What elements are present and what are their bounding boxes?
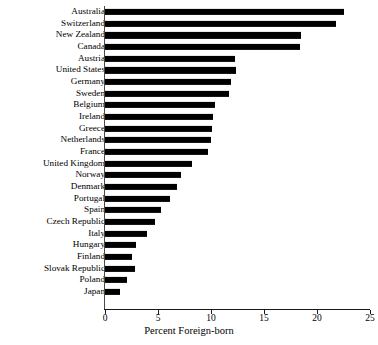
bar-row: New Zealand [0, 30, 378, 42]
bar-row: Hungary [0, 239, 378, 251]
bar [105, 91, 229, 97]
x-tick-label: 20 [312, 314, 322, 324]
bar-row: Portugal [0, 193, 378, 205]
bar-row: Italy [0, 228, 378, 240]
bar-row: Poland [0, 274, 378, 286]
bar [105, 207, 161, 213]
bar-row: Ireland [0, 111, 378, 123]
bar [105, 137, 211, 143]
bar-row: Australia [0, 6, 378, 18]
category-label: France [80, 147, 105, 156]
bar [105, 172, 181, 178]
category-label: Austria [78, 54, 105, 63]
bar-row: Greece [0, 123, 378, 135]
category-label: New Zealand [56, 31, 105, 40]
x-tick-label: 25 [365, 314, 375, 324]
bar [105, 254, 132, 260]
bar [105, 126, 212, 132]
category-label: Germany [71, 77, 105, 86]
category-label: Italy [88, 229, 105, 238]
x-tick-label: 0 [103, 314, 108, 324]
category-label: Norway [75, 171, 105, 180]
bar [105, 230, 147, 236]
bar-row: Austria [0, 53, 378, 65]
y-axis-line [104, 6, 105, 310]
bar [105, 44, 300, 50]
bar [105, 102, 215, 108]
bar [105, 161, 192, 167]
category-label: Greece [79, 124, 105, 133]
category-label: Netherlands [61, 136, 105, 145]
bar [105, 56, 235, 62]
bar [105, 9, 344, 15]
category-label: Finland [77, 252, 105, 261]
x-axis-line [104, 309, 370, 310]
x-tick-label: 15 [259, 314, 269, 324]
category-label: Hungary [73, 241, 105, 250]
x-tick-label: 10 [206, 314, 216, 324]
x-tick-label: 5 [156, 314, 161, 324]
category-label: Denmark [71, 182, 105, 191]
plot-area: AustraliaSwitzerlandNew ZealandCanadaAus… [0, 0, 378, 310]
category-label: Ireland [79, 112, 105, 121]
x-axis-title: Percent Foreign-born [0, 326, 378, 337]
bar [105, 67, 236, 73]
bar [105, 32, 301, 38]
bar-row: Norway [0, 169, 378, 181]
category-label: Belgium [73, 101, 105, 110]
bar-row: Spain [0, 204, 378, 216]
bar [105, 21, 336, 27]
category-label: Portugal [74, 194, 105, 203]
bar [105, 219, 155, 225]
category-label: Czech Republic [47, 217, 105, 226]
bar [105, 114, 213, 120]
bar-row: Germany [0, 76, 378, 88]
bar-row: Finland [0, 251, 378, 263]
bar [105, 79, 231, 85]
bar-row: Denmark [0, 181, 378, 193]
bar [105, 149, 208, 155]
bar-row: Czech Republic [0, 216, 378, 228]
bar-row: Sweden [0, 88, 378, 100]
bar [105, 195, 170, 201]
category-label: United Kingdom [43, 159, 105, 168]
bar-row: United States [0, 65, 378, 77]
bar-row: Netherlands [0, 134, 378, 146]
bar-row: Switzerland [0, 18, 378, 30]
bar [105, 277, 127, 283]
category-label: Spain [84, 206, 105, 215]
category-label: United States [56, 66, 105, 75]
category-label: Canada [77, 42, 105, 51]
bar [105, 265, 135, 271]
category-label: Poland [79, 276, 105, 285]
bar [105, 242, 136, 248]
bar-row: Belgium [0, 99, 378, 111]
foreign-born-bar-chart: AustraliaSwitzerlandNew ZealandCanadaAus… [0, 0, 378, 345]
category-label: Australia [71, 7, 105, 16]
bar-row: Slovak Republic [0, 263, 378, 275]
bar-row: Canada [0, 41, 378, 53]
bar-row: Japan [0, 286, 378, 298]
category-label: Switzerland [61, 19, 105, 28]
bar [105, 289, 120, 295]
category-label: Slovak Republic [44, 264, 105, 273]
bar-row: United Kingdom [0, 158, 378, 170]
bar [105, 184, 177, 190]
category-label: Sweden [76, 89, 105, 98]
bar-row: France [0, 146, 378, 158]
category-label: Japan [84, 287, 105, 296]
